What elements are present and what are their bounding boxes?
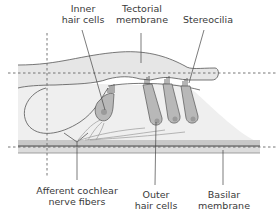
label-stereocilia: Stereocilia <box>180 14 236 25</box>
outer-hair-cells <box>143 84 198 125</box>
basilar-membrane-band-top <box>18 140 260 145</box>
label-afferent-nerve-fibers: Afferent cochlear nerve fibers <box>34 185 120 207</box>
tectorial-membrane <box>18 52 218 88</box>
label-inner-hair-cells: Inner hair cells <box>55 3 111 25</box>
label-basilar-membrane: Basilar membrane <box>196 189 252 211</box>
inner-hair-cell-nucleus <box>101 109 107 115</box>
label-tectorial-membrane: Tectorial membrane <box>114 3 170 25</box>
organ-of-corti-diagram <box>0 0 277 215</box>
label-outer-hair-cells: Outer hair cells <box>128 189 184 211</box>
organ-of-corti-body <box>18 83 258 142</box>
basilar-membrane-band-bottom <box>18 147 260 153</box>
